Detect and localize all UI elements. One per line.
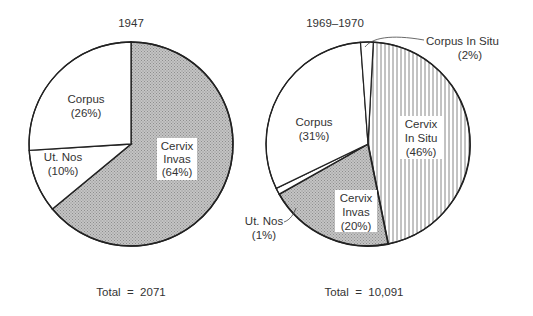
label-ut-nos-pct: (1%) (252, 229, 276, 241)
pie-1947: 1947 Corpus (26%) Ut. Nos (10%) Cervix I… (29, 17, 233, 298)
label-cervix-invas-pct: (64%) (162, 166, 193, 178)
label-ut-nos: Ut. Nos (44, 151, 83, 163)
label-corpus: Corpus (67, 93, 104, 105)
pie-1969-1970: 1969–1970 Corpus In Situ (2%) Corpus (31… (245, 17, 499, 298)
label-ut-nos: Ut. Nos (245, 215, 284, 227)
label-corpus-pct: (26%) (71, 107, 102, 119)
label-cervix-invas-2: Invas (342, 206, 370, 218)
label-corpus-pct: (31%) (299, 130, 330, 142)
label-cervix-in-situ-pct: (46%) (406, 146, 437, 158)
label-cervix-invas-1: Cervix (340, 192, 373, 204)
pie-1969-title: 1969–1970 (306, 17, 364, 29)
pie-1947-total: Total = 2071 (96, 286, 165, 298)
label-cervix-invas-1: Cervix (161, 140, 194, 152)
label-corpus-in-situ: Corpus In Situ (426, 35, 499, 47)
label-corpus-in-situ-pct: (2%) (458, 49, 482, 61)
pie-1947-title: 1947 (118, 17, 144, 29)
pie-charts: 1947 Corpus (26%) Ut. Nos (10%) Cervix I… (0, 0, 533, 316)
label-cervix-in-situ-1: Cervix (405, 118, 438, 130)
label-cervix-invas-2: Invas (163, 153, 191, 165)
label-ut-nos-pct: (10%) (48, 165, 79, 177)
label-cervix-invas-pct: (20%) (341, 220, 372, 232)
pie-1969-total: Total = 10,091 (325, 286, 404, 298)
label-cervix-in-situ-2: In Situ (405, 132, 438, 144)
label-corpus: Corpus (295, 116, 332, 128)
